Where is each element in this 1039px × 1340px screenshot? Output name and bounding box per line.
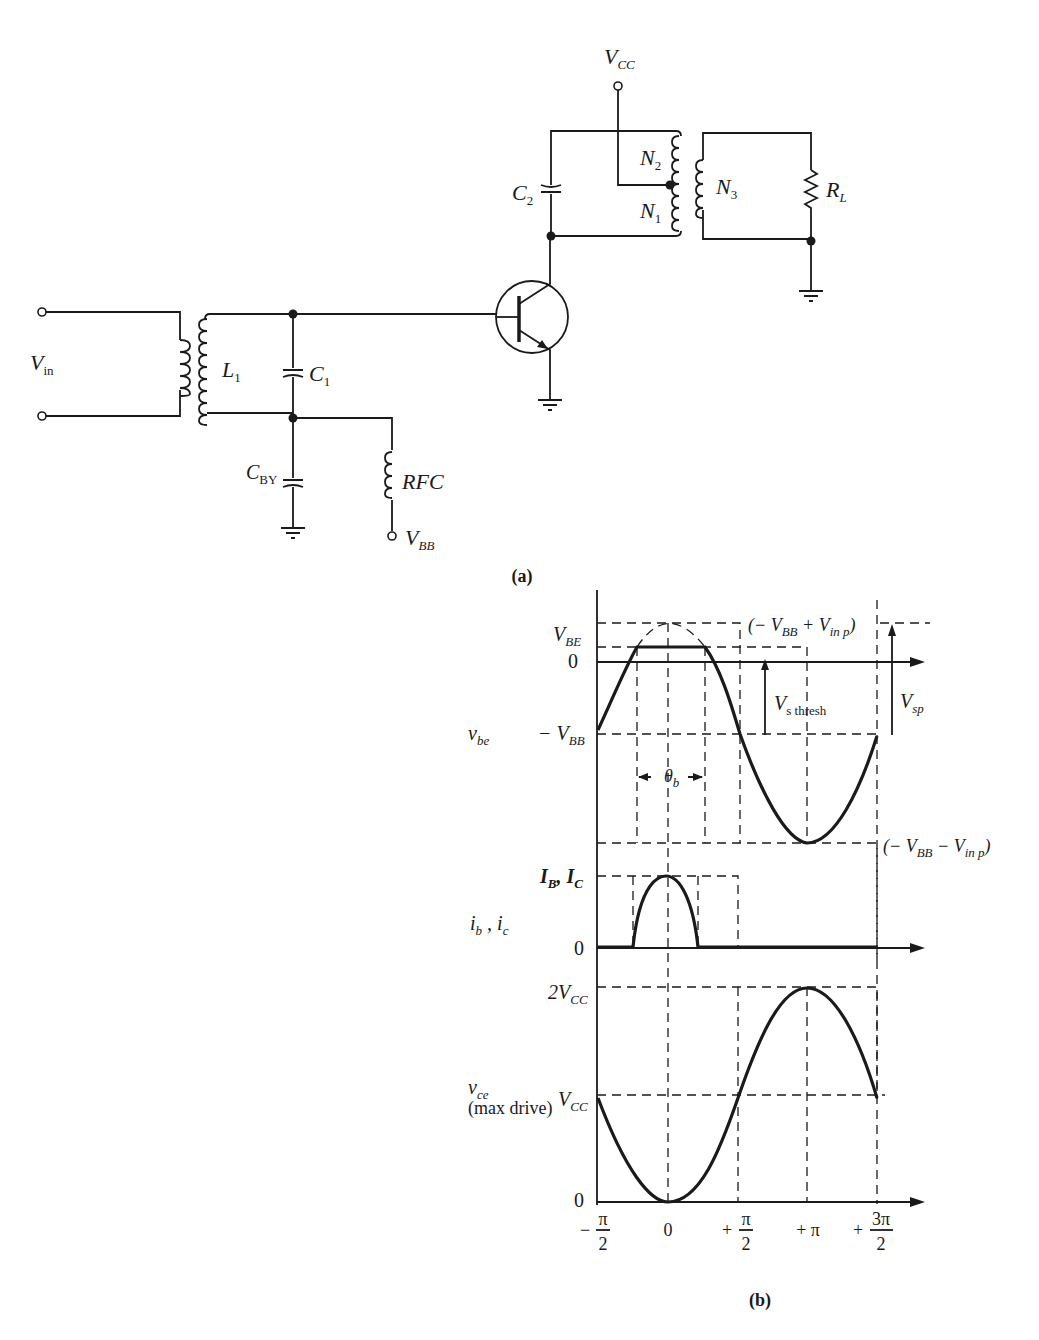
svg-text:−: − xyxy=(580,1220,590,1240)
rfc-label: RFC xyxy=(401,469,444,494)
x-tick-labels: − π 2 0 + π 2 + π + 3π 2 xyxy=(580,1209,893,1254)
vin-label: Vin xyxy=(30,350,54,378)
vin-terminal-top xyxy=(38,308,46,316)
caption-b: (b) xyxy=(749,1290,771,1311)
rl-resistor xyxy=(805,170,817,241)
ib-zero-label: 0 xyxy=(574,937,584,959)
l1-coil xyxy=(199,319,207,425)
vsp-label: Vsp xyxy=(900,690,924,716)
ib-ic-signal-name: ib , ic xyxy=(470,912,509,938)
rl-label: RL xyxy=(825,177,847,205)
svg-text:3π: 3π xyxy=(872,1209,890,1229)
vce-zero-label: 0 xyxy=(574,1189,584,1211)
ib-ic-curve xyxy=(597,876,877,947)
vcc-terminal xyxy=(614,82,622,90)
vbe-label: VBE xyxy=(553,623,581,649)
neg-vbb-label: − VBB xyxy=(538,722,585,748)
waveform-diagram: VBE 0 − VBB vbe (− VBB + Vin p) (− VBB −… xyxy=(468,590,991,1311)
svg-text:2: 2 xyxy=(599,1234,608,1254)
svg-text:π: π xyxy=(741,1209,750,1229)
c1-label: C1 xyxy=(309,361,330,389)
figure-canvas: Vin L1 C1 CBY RFC VBB xyxy=(0,0,1039,1340)
svg-text:2: 2 xyxy=(742,1234,751,1254)
cby-capacitor xyxy=(283,418,303,528)
circuit-diagram: Vin L1 C1 CBY RFC VBB xyxy=(30,44,847,587)
n3-label: N3 xyxy=(715,174,737,202)
l1-label: L1 xyxy=(221,357,241,385)
n3-coil xyxy=(696,160,703,218)
vbb-label: VBB xyxy=(405,525,434,553)
vcc-label: VCC xyxy=(604,44,635,72)
n2-label: N2 xyxy=(639,145,661,173)
n1-label: N1 xyxy=(639,198,661,226)
svg-text:2: 2 xyxy=(877,1234,886,1254)
caption-a: (a) xyxy=(512,566,533,587)
vcc-level-label: VCC xyxy=(558,1088,588,1114)
npn-transistor-icon xyxy=(496,238,568,400)
c2-label: C2 xyxy=(512,180,533,208)
cby-label: CBY xyxy=(246,461,278,487)
vin-terminal-bottom xyxy=(38,412,46,420)
ground-icon xyxy=(538,400,562,410)
rfc-coil xyxy=(385,452,392,498)
vbb-terminal xyxy=(388,532,396,540)
svg-text:+: + xyxy=(853,1220,863,1240)
top-peak-annotation: (− VBB + Vin p) xyxy=(748,615,856,639)
vbe-signal-name: vbe xyxy=(468,722,489,748)
c1-capacitor xyxy=(283,314,303,418)
ground-icon xyxy=(799,241,823,301)
theta-b-label: θb xyxy=(664,766,680,790)
input-primary-coil xyxy=(180,340,190,396)
vbe-zero-label: 0 xyxy=(568,650,578,672)
vs-thresh-label: Vs thresh xyxy=(774,692,827,718)
svg-text:0: 0 xyxy=(664,1220,673,1240)
bottom-peak-annotation: (− VBB − Vin p) xyxy=(883,836,991,860)
svg-text:+: + xyxy=(722,1220,732,1240)
ground-icon xyxy=(281,528,305,538)
vbe-curve xyxy=(598,647,877,843)
svg-text:π: π xyxy=(598,1209,607,1229)
ib-ic-peak-label: IB, IC xyxy=(539,865,583,891)
svg-text:+ π: + π xyxy=(796,1220,820,1240)
two-vcc-label: 2VCC xyxy=(548,981,588,1007)
vce-max-drive-note: (max drive) xyxy=(468,1098,552,1119)
